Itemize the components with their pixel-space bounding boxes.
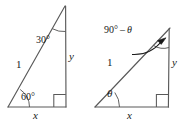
apex-angle-degrees-part: 90° — [104, 24, 118, 35]
left-triangle — [8, 6, 66, 107]
right-triangle-apex-angle-label: 90°–θ — [104, 25, 132, 35]
right-triangle-vertical-leg — [168, 29, 169, 108]
apex-angle-minus-part: – — [118, 24, 127, 35]
right-triangle-base-label: x — [127, 110, 132, 121]
figure-canvas — [0, 0, 185, 124]
geometry-figure: 30° 1 y 60° x 90°–θ 1 y θ x — [0, 0, 185, 124]
apex-angle-theta-part: θ — [127, 24, 132, 35]
right-triangle-base-angle-arc — [115, 93, 120, 108]
left-triangle-hypotenuse — [8, 6, 65, 107]
right-triangle-vertical-leg-label: y — [172, 57, 177, 68]
right-triangle-right-angle-icon — [156, 95, 168, 108]
apex-angle-leader-arrow-icon — [132, 38, 166, 55]
left-triangle-apex-angle-label: 30° — [36, 35, 50, 45]
left-triangle-base-angle-label: 60° — [21, 92, 35, 102]
right-triangle-base-angle-label: θ — [107, 88, 112, 99]
left-triangle-hypotenuse-label: 1 — [16, 59, 22, 70]
left-triangle-vertical-leg-label: y — [69, 51, 74, 62]
left-triangle-right-angle-icon — [54, 95, 66, 108]
left-triangle-apex-angle-arc — [52, 29, 65, 32]
right-triangle-hypotenuse-label: 1 — [107, 57, 113, 68]
left-triangle-base-label: x — [33, 110, 38, 121]
